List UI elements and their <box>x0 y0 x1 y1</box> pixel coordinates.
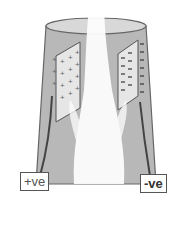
svg-text:+: + <box>60 69 65 78</box>
svg-text:+: + <box>52 67 57 76</box>
svg-text:+: + <box>75 48 80 57</box>
svg-text:+: + <box>60 81 65 90</box>
svg-text:+: + <box>60 93 65 102</box>
svg-text:+: + <box>75 84 80 93</box>
svg-text:+: + <box>68 89 73 98</box>
svg-text:+: + <box>60 57 65 66</box>
svg-text:+: + <box>68 53 73 62</box>
negative-label: -ve <box>140 174 167 193</box>
svg-text:+: + <box>75 60 80 69</box>
positive-label: +ve <box>20 172 49 191</box>
svg-text:+: + <box>75 72 80 81</box>
svg-text:+: + <box>52 55 57 64</box>
svg-text:+: + <box>68 77 73 86</box>
svg-text:+: + <box>68 65 73 74</box>
svg-text:+: + <box>52 79 57 88</box>
